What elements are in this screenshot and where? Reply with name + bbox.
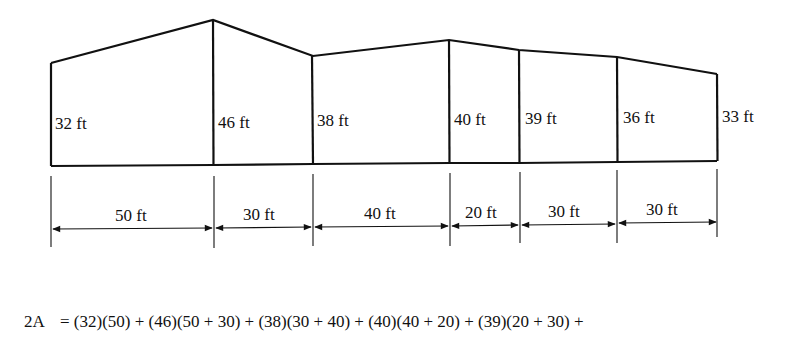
dim-arrow-6 <box>619 222 716 223</box>
offset-line-5 <box>519 50 520 163</box>
dim-arrow-2 <box>216 227 311 228</box>
width-labels: 50 ft 30 ft 40 ft 20 ft 30 ft 30 ft <box>115 200 678 225</box>
width-label-1: 50 ft <box>115 206 147 225</box>
width-label-4: 20 ft <box>465 203 497 222</box>
height-label-6: 36 ft <box>623 108 655 127</box>
offset-line-3 <box>312 56 313 164</box>
offset-line-4 <box>449 40 450 163</box>
height-label-7: 33 ft <box>722 107 754 126</box>
offset-line-6 <box>617 57 618 162</box>
formula-rhs-1: = (32)(50) + (46)(50 + 30) + (38)(30 + 4… <box>60 312 584 331</box>
offset-line-2 <box>213 20 214 165</box>
height-label-3: 38 ft <box>317 111 349 130</box>
width-label-6: 30 ft <box>646 200 678 219</box>
width-label-2: 30 ft <box>243 205 275 224</box>
height-labels: 32 ft 46 ft 38 ft 40 ft 39 ft 36 ft 33 f… <box>55 107 754 133</box>
height-label-5: 39 ft <box>525 109 557 128</box>
dim-arrow-3 <box>315 226 448 227</box>
width-label-3: 40 ft <box>364 204 396 223</box>
formula-line-1: 2A= (32)(50) + (46)(50 + 30) + (38)(30 +… <box>24 312 584 332</box>
formula-lhs-2a: 2A <box>24 312 60 332</box>
offset-lines <box>51 20 718 166</box>
dim-arrow-1 <box>53 228 212 229</box>
height-label-1: 32 ft <box>55 114 87 133</box>
height-label-4: 40 ft <box>454 110 486 129</box>
area-formula: 2A= (32)(50) + (46)(50 + 30) + (38)(30 +… <box>24 272 584 343</box>
dim-arrow-4 <box>452 225 518 226</box>
dim-arrow-5 <box>522 224 615 225</box>
offset-line-7 <box>717 74 718 161</box>
height-label-2: 46 ft <box>218 113 250 132</box>
width-label-5: 30 ft <box>548 202 580 221</box>
trapezoidal-area-diagram: 32 ft 46 ft 38 ft 40 ft 39 ft 36 ft 33 f… <box>0 0 805 260</box>
